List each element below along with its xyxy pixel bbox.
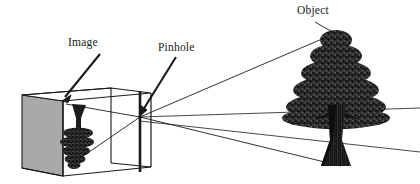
label-image: Image — [68, 36, 98, 48]
upright-tree-object — [282, 28, 390, 166]
image-plane-panel — [22, 95, 63, 176]
ray-auxiliary-lower — [140, 121, 420, 152]
diagram-canvas — [0, 0, 420, 184]
pinhole-leader-line — [143, 57, 176, 110]
label-object: Object — [297, 4, 329, 16]
label-pinhole: Pinhole — [158, 41, 195, 53]
box-mid-lower-edge — [111, 163, 151, 167]
inverted-tree-image — [60, 104, 94, 169]
inverted-tree-trunk — [72, 104, 86, 131]
object-leader-line — [315, 22, 336, 34]
pinhole-camera-figure: Image Pinhole Object — [0, 0, 420, 184]
